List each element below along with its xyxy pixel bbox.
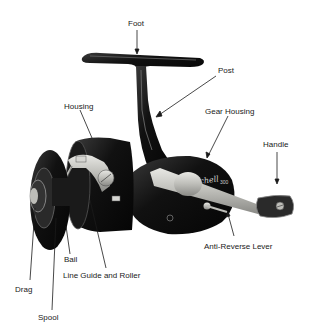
label-spool: Spool xyxy=(38,314,58,322)
leader-anti-reverse xyxy=(228,214,234,236)
label-gear-housing: Gear Housing xyxy=(205,108,254,116)
leader-housing xyxy=(80,110,92,138)
leader-gear-housing xyxy=(208,116,228,156)
leader-bail xyxy=(66,226,70,254)
label-anti-reverse-lever: Anti-Reverse Lever xyxy=(204,243,272,251)
label-bail: Bail xyxy=(64,256,77,264)
reel-diagram: Mitchell 300 xyxy=(0,0,320,335)
model-marking: 300 xyxy=(220,179,229,185)
label-drag: Drag xyxy=(15,286,32,294)
label-post: Post xyxy=(218,67,234,75)
post-part xyxy=(136,66,174,172)
label-line-guide-and-roller: Line Guide and Roller xyxy=(63,272,140,280)
label-foot: Foot xyxy=(128,20,144,28)
reel-illustration: Mitchell 300 xyxy=(0,0,320,335)
drag-part xyxy=(30,180,46,212)
label-housing: Housing xyxy=(64,103,93,111)
label-handle: Handle xyxy=(263,141,288,149)
